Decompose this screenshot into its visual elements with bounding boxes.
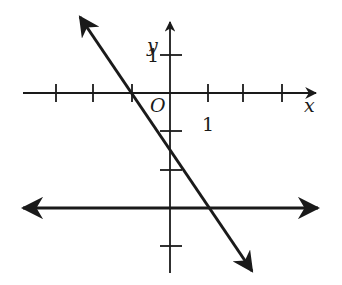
x-tick-label-1: 1: [202, 113, 214, 135]
y-tick-label-1: 1: [147, 44, 159, 66]
coordinate-plane: y 1 O 1 x: [0, 0, 342, 285]
y-axis: [160, 22, 182, 273]
origin-label: O: [150, 94, 166, 116]
x-axis-label: x: [304, 94, 315, 116]
